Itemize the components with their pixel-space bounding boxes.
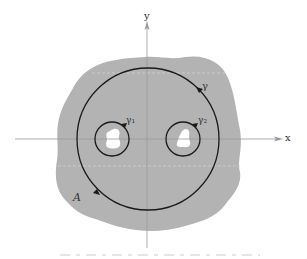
diagram: y x γ γ₁ γ₂ A — [0, 0, 307, 259]
caption-fragment — [60, 252, 260, 258]
gamma1-label: γ₁ — [126, 116, 135, 125]
diagram-canvas — [0, 0, 307, 259]
region-a-label: A — [73, 192, 81, 203]
gamma2-label: γ₂ — [198, 116, 207, 125]
y-axis-label: y — [144, 11, 150, 21]
x-axis-label: x — [285, 133, 291, 143]
gamma-label: γ — [202, 81, 208, 91]
region-a — [56, 56, 241, 231]
